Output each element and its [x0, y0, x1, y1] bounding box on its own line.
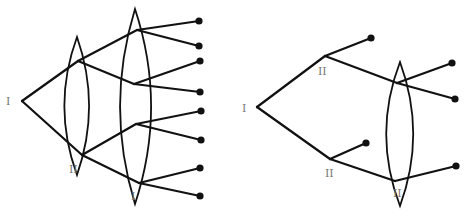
- tree-edge: [22, 101, 82, 155]
- tree-edge: [139, 168, 200, 183]
- terminal-node: [448, 59, 455, 66]
- tree-edge: [397, 63, 452, 83]
- tree-edge: [325, 56, 397, 83]
- root-player-label: I: [242, 102, 246, 115]
- left-tree: IIII: [6, 9, 205, 204]
- tree-edge: [82, 155, 139, 183]
- information-set-label: I: [131, 190, 135, 203]
- tree-edge: [257, 107, 330, 159]
- terminal-node: [196, 192, 203, 199]
- right-tree: IIIIIII: [242, 34, 460, 206]
- information-set-label: II: [393, 187, 402, 200]
- tree-edge: [82, 124, 136, 155]
- terminal-node: [196, 164, 203, 171]
- tree-edge: [330, 159, 395, 181]
- tree-edge: [257, 56, 325, 107]
- terminal-node: [197, 107, 204, 114]
- root-player-label: I: [6, 95, 10, 108]
- terminal-node: [196, 57, 203, 64]
- information-set-label: II: [69, 163, 78, 176]
- tree-edge: [395, 166, 456, 181]
- tree-edge: [330, 143, 366, 159]
- terminal-node: [362, 139, 369, 146]
- tree-edge: [136, 124, 201, 140]
- tree-edge: [137, 30, 199, 46]
- game-tree-diagram: IIIIIIIIIII: [0, 0, 467, 217]
- node-player-label: II: [325, 167, 334, 180]
- terminal-node: [196, 88, 203, 95]
- tree-edge: [397, 83, 455, 99]
- terminal-node: [452, 162, 459, 169]
- tree-edge: [325, 38, 371, 56]
- terminal-node: [195, 42, 202, 49]
- terminal-node: [367, 34, 374, 41]
- tree-edge: [139, 183, 200, 196]
- tree-edge: [78, 30, 137, 61]
- terminal-node: [197, 136, 204, 143]
- terminal-node: [451, 95, 458, 102]
- tree-edge: [136, 111, 201, 124]
- tree-edge: [22, 61, 78, 101]
- tree-edge: [137, 21, 199, 30]
- node-player-label: II: [318, 65, 327, 78]
- information-set-lens: [120, 9, 151, 204]
- terminal-node: [195, 17, 202, 24]
- tree-edge: [134, 61, 200, 84]
- tree-edge: [134, 84, 200, 92]
